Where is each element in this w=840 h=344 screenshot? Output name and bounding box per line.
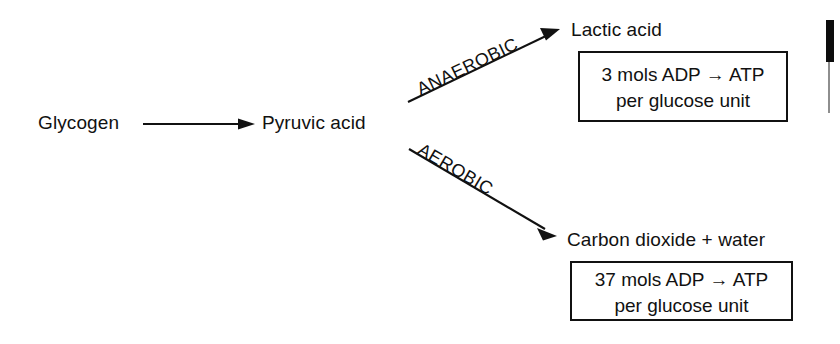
node-label-carbon-dioxide-water: Carbon dioxide + water (567, 230, 765, 249)
anaerobic-yield-line-2: per glucose unit (580, 88, 786, 114)
node-label-glycogen: Glycogen (38, 113, 119, 132)
node-label-lactic-acid: Lactic acid (571, 20, 662, 39)
aerobic-yield-line-1: 37 mols ADP → ATP (572, 267, 791, 293)
aerobic-yield-box: 37 mols ADP → ATP per glucose unit (570, 261, 793, 321)
edge-label-anaerobic: ANAEROBIC (414, 35, 521, 98)
node-label-pyruvic-acid: Pyruvic acid (262, 113, 366, 132)
anaerobic-yield-line-1: 3 mols ADP → ATP (580, 62, 786, 88)
arrow-glycogen-to-pyruvic (143, 119, 255, 130)
edge-label-aerobic: AEROBIC (415, 140, 496, 198)
pathway-diagram: Glycogen Pyruvic acid Lactic acid Carbon… (0, 0, 840, 344)
anaerobic-yield-box: 3 mols ADP → ATP per glucose unit (578, 51, 788, 122)
scan-artifact-line (828, 62, 830, 113)
aerobic-yield-line-2: per glucose unit (572, 293, 791, 319)
scan-artifact-bar (826, 20, 834, 62)
